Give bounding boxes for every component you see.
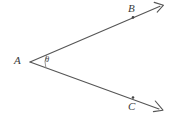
point-b-marker: [132, 16, 135, 19]
ray-ac-line: [30, 62, 159, 109]
point-c-marker: [132, 96, 135, 99]
ray-ac-arrowhead-icon: [153, 101, 163, 112]
ray-ab-line: [30, 6, 160, 62]
angle-label-theta: θ: [45, 55, 49, 64]
point-label-c: C: [128, 101, 135, 112]
angle-diagram-figure: A B C θ: [0, 0, 169, 116]
point-label-a: A: [14, 55, 21, 66]
point-label-b: B: [128, 3, 135, 14]
diagram-canvas: [0, 0, 169, 116]
